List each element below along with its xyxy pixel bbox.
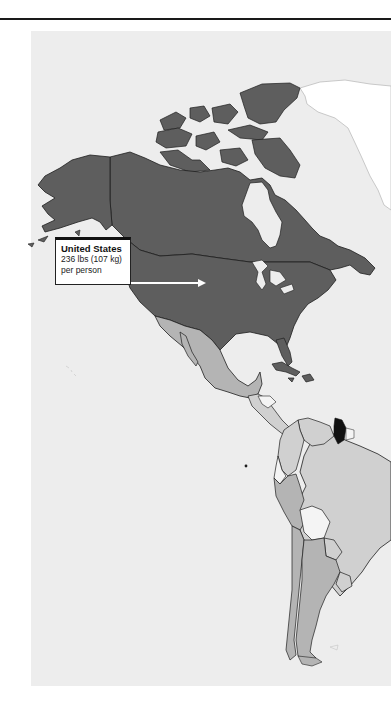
galapagos: [245, 465, 248, 468]
callout-country: United States: [61, 243, 126, 254]
peru: [274, 474, 306, 530]
callout-value: 236 lbs (107 kg): [61, 254, 126, 265]
hispaniola: [288, 374, 314, 382]
cuba: [272, 362, 300, 376]
callout-unit: per person: [61, 265, 126, 276]
canada-arctic-islands: [156, 83, 300, 178]
hawaii-islands: [66, 366, 76, 376]
alaska: [38, 155, 112, 232]
falkland-islands: [330, 645, 338, 650]
guyana: [334, 418, 346, 444]
united-states-callout: United States 236 lbs (107 kg) per perso…: [55, 237, 131, 285]
suriname: [346, 428, 354, 440]
florida: [276, 338, 292, 366]
greenland: [300, 80, 391, 210]
americas-map: [0, 0, 391, 706]
tierra-del-fuego: [298, 656, 322, 666]
